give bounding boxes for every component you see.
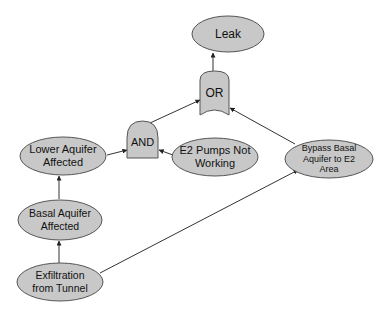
edge-and-to-or <box>150 100 200 123</box>
label-lower-aquifer-line2: Affected <box>43 156 83 169</box>
label-lower-aquifer: Lower Aquifer Affected <box>20 137 106 175</box>
label-e2-pumps-line1: E2 Pumps Not <box>180 144 251 157</box>
label-bypass: Bypass Basal Aquifer to E2 Area <box>285 140 373 178</box>
label-and-line1: AND <box>131 136 154 149</box>
label-basal-aquifer-line1: Basal Aquifer <box>29 207 91 220</box>
label-basal-aquifer: Basal Aquifer Affected <box>18 200 102 240</box>
edge-exfil-to-bypass <box>100 170 298 273</box>
label-bypass-line2: Aquifer to E2 <box>303 154 355 165</box>
label-bypass-line1: Bypass Basal <box>302 143 357 154</box>
label-leak: Leak <box>192 16 264 52</box>
label-exfiltration-line2: from Tunnel <box>32 282 87 295</box>
label-basal-aquifer-line2: Affected <box>41 220 79 233</box>
label-exfiltration: Exfiltration from Tunnel <box>17 263 103 301</box>
label-lower-aquifer-line1: Lower Aquifer <box>29 143 96 156</box>
edge-e2-to-and <box>159 150 173 155</box>
label-leak-line1: Leak <box>215 27 241 41</box>
edge-lower-to-and <box>107 150 127 155</box>
label-and: AND <box>127 130 158 156</box>
label-exfiltration-line1: Exfiltration <box>35 269 84 282</box>
label-or: OR <box>200 80 229 106</box>
label-e2-pumps-line2: Working <box>195 157 235 170</box>
label-e2-pumps: E2 Pumps Not Working <box>172 138 258 176</box>
label-or-line1: OR <box>206 86 224 100</box>
label-bypass-line3: Area <box>319 164 338 175</box>
